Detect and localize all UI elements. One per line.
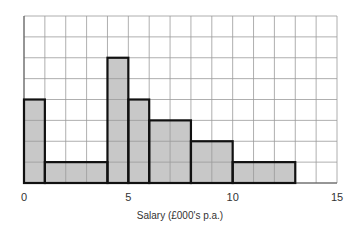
x-tick-label: 5 <box>125 191 131 203</box>
histogram-chart: 051015 Salary (£000's p.a.) <box>0 0 360 234</box>
histogram-bar <box>233 162 296 183</box>
x-tick-label: 10 <box>227 191 239 203</box>
chart-grid <box>24 16 337 183</box>
x-axis-label: Salary (£000's p.a.) <box>137 210 223 221</box>
x-axis-tick-labels: 051015 <box>21 191 343 203</box>
x-tick-label: 0 <box>21 191 27 203</box>
x-tick-label: 15 <box>331 191 343 203</box>
histogram-bar <box>45 162 108 183</box>
